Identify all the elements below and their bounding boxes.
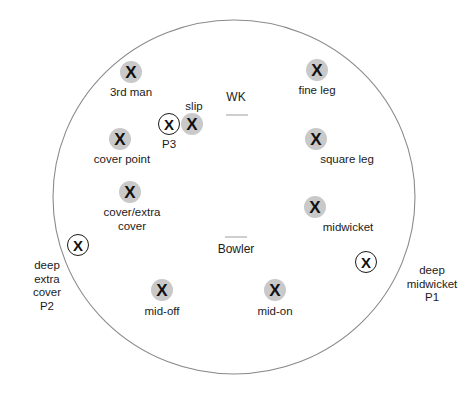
- boundary-ellipse: [53, 20, 415, 374]
- fielder-marker-cover-extra-cover[interactable]: X: [119, 181, 141, 203]
- x-marker-icon: X: [114, 131, 125, 148]
- fielder-marker-mid-off[interactable]: X: [151, 279, 173, 301]
- fielder-label-deep-midwicket: deep midwicket P1: [407, 264, 457, 305]
- fielder-marker-deep-extra-cover[interactable]: X: [67, 234, 89, 256]
- x-marker-icon: X: [156, 282, 167, 299]
- fielder-label-cover-point: cover point: [94, 153, 150, 167]
- x-marker-icon: X: [309, 199, 320, 216]
- fielder-marker-p3[interactable]: X: [158, 113, 180, 135]
- fielder-marker-cover-point[interactable]: X: [109, 128, 131, 150]
- fielder-label-fine-leg: fine leg: [298, 84, 335, 98]
- fielder-marker-mid-on[interactable]: X: [264, 279, 286, 301]
- fielder-label-cover-extra-cover: cover/extra cover: [104, 206, 161, 233]
- fielder-label-midwicket: midwicket: [323, 221, 373, 235]
- x-marker-icon: X: [125, 64, 136, 81]
- fielder-marker-fine-leg[interactable]: X: [306, 59, 328, 81]
- fielder-label-deep-extra-cover: deep extra cover P2: [33, 259, 61, 313]
- fielder-marker-square-leg[interactable]: X: [305, 128, 327, 150]
- field-boundary: [0, 0, 476, 393]
- bowler-label: Bowler: [218, 243, 255, 257]
- fielder-marker-third-man[interactable]: X: [120, 61, 142, 83]
- fielder-marker-slip[interactable]: X: [181, 113, 203, 135]
- wicketkeeper-crease-line: [226, 114, 248, 116]
- fielder-label-mid-off: mid-off: [145, 305, 180, 319]
- fielder-label-p3: P3: [162, 138, 176, 152]
- fielder-label-square-leg: square leg: [320, 153, 374, 167]
- fielder-label-third-man: 3rd man: [110, 86, 152, 100]
- fielder-marker-deep-midwicket[interactable]: X: [355, 251, 377, 273]
- x-marker-icon: X: [310, 131, 321, 148]
- fielder-label-mid-on: mid-on: [257, 305, 292, 319]
- fielder-label-slip: slip: [185, 100, 202, 114]
- x-marker-icon: X: [269, 282, 280, 299]
- x-marker-icon: X: [164, 117, 174, 132]
- wicketkeeper-label: WK: [226, 91, 245, 105]
- bowler-crease-line: [225, 236, 247, 238]
- cricket-field-diagram: WK Bowler X3rd manXfine legXslipXP3Xcove…: [0, 0, 476, 393]
- x-marker-icon: X: [186, 116, 197, 133]
- fielder-marker-midwicket[interactable]: X: [304, 196, 326, 218]
- x-marker-icon: X: [311, 62, 322, 79]
- x-marker-icon: X: [124, 184, 135, 201]
- x-marker-icon: X: [73, 238, 83, 253]
- x-marker-icon: X: [361, 255, 371, 270]
